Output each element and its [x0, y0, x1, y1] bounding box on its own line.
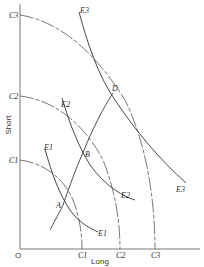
- e3-bottom-label: E3: [175, 185, 185, 194]
- c3-y-label: C3: [9, 11, 18, 20]
- e3-top-label: E3: [79, 6, 89, 15]
- e2-top-label: E2: [60, 100, 70, 109]
- point-a-label: A: [55, 201, 61, 210]
- e1-curve: [45, 149, 98, 232]
- e1-bottom-label: E1: [97, 229, 107, 238]
- point-b-label: B: [85, 150, 90, 159]
- y-axis-label: Short: [4, 115, 13, 135]
- expansion-path-diagram: O Long Short C3 C2 C1 C1 C2 C3 E1 E2 E3 …: [0, 0, 204, 267]
- e2-bottom-label: E2: [120, 191, 130, 200]
- e3-curve: [79, 12, 186, 183]
- x-axis-label: Long: [91, 257, 109, 266]
- point-d-label: D: [111, 84, 118, 93]
- c2-x-label: C2: [116, 251, 125, 260]
- c2-curve: [20, 96, 120, 249]
- c1-curve: [20, 160, 82, 249]
- c3-x-label: C3: [151, 251, 160, 260]
- e1-top-label: E1: [43, 143, 53, 152]
- c2-y-label: C2: [9, 92, 18, 101]
- c1-x-label: C1: [78, 251, 87, 260]
- c3-curve: [20, 15, 155, 249]
- origin-label: O: [15, 251, 21, 260]
- c1-y-label: C1: [9, 156, 18, 165]
